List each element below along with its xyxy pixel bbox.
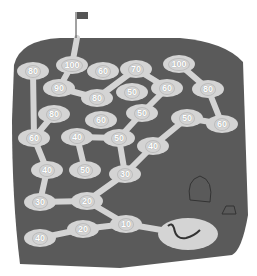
space-value: 40 [145,140,161,153]
space-value: 50 [77,164,93,177]
space-value: 30 [32,196,48,209]
board-space: 40 [61,128,93,146]
board-space: 40 [137,137,169,155]
space-value: 20 [79,195,95,208]
board-space: 50 [103,129,135,147]
board-space: 50 [126,104,158,122]
space-value: 50 [179,112,195,125]
board-space: 80 [17,62,49,80]
board-space: 80 [38,105,70,123]
board-space: 40 [31,161,63,179]
space-value: 60 [214,118,230,131]
space-value: 80 [25,65,41,78]
flag-icon [77,12,88,19]
space-value: 80 [46,108,62,121]
board-space: 60 [85,111,117,129]
finish-worm-space [158,218,218,250]
space-value: 50 [124,86,140,99]
board-space: 60 [206,115,238,133]
space-value: 80 [200,83,216,96]
space-value: 60 [95,65,111,78]
board-space: 80 [81,89,113,107]
board-space: 30 [109,165,141,183]
board-space: 100 [163,55,195,73]
board-space: 60 [151,79,183,97]
board-space: 40 [24,229,56,247]
space-value: 40 [39,164,55,177]
board-space: 60 [18,129,50,147]
board-space: 50 [116,83,148,101]
space-value: 60 [159,82,175,95]
board-space: 80 [192,80,224,98]
space-value: 30 [117,168,133,181]
board-space: 60 [87,62,119,80]
space-value: 50 [134,107,150,120]
board-space: 50 [171,109,203,127]
space-value: 40 [32,232,48,245]
space-value: 100 [61,59,82,72]
space-value: 100 [168,58,189,71]
space-value: 70 [128,63,144,76]
board-space: 50 [69,161,101,179]
board-space: 90 [43,79,75,97]
space-value: 10 [118,218,134,231]
space-value: 50 [111,132,127,145]
board-space: 10 [110,215,142,233]
space-value: 80 [89,92,105,105]
board-space: 100 [56,56,88,74]
board-space: 20 [71,192,103,210]
space-value: 90 [51,82,67,95]
board-space: 30 [24,193,56,211]
space-value: 20 [75,223,91,236]
space-value: 60 [26,132,42,145]
space-value: 60 [93,114,109,127]
board-space: 20 [67,220,99,238]
board-space: 70 [120,60,152,78]
space-value: 40 [69,131,85,144]
